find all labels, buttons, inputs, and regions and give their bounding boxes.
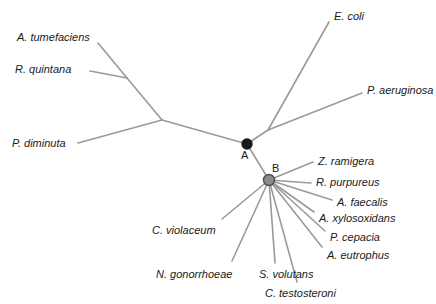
branch-a-eutrophus xyxy=(269,180,322,247)
taxon-label-s-volutans: S. volutans xyxy=(259,269,313,280)
branch-root-to-a xyxy=(162,120,247,144)
taxon-label-c-violaceum: C. violaceum xyxy=(152,225,216,236)
taxon-label-a-xylosoxidans: A. xylosoxidans xyxy=(319,213,395,224)
branch-p-aeruginosa xyxy=(268,93,362,130)
internal-node-a[interactable] xyxy=(242,139,252,149)
taxon-label-r-quintana: R. quintana xyxy=(15,64,71,75)
taxon-label-r-purpureus: R. purpureus xyxy=(316,177,380,188)
taxon-label-e-coli: E. coli xyxy=(334,11,364,22)
branch-upper-left-internal xyxy=(127,78,162,120)
node-label-a: A xyxy=(241,150,248,161)
taxon-label-c-testosteroni: C. testosteroni xyxy=(265,288,336,299)
branch-e-coli xyxy=(268,22,329,130)
internal-node-b[interactable] xyxy=(264,175,275,186)
phylogenetic-tree-figure: ABA. tumefaciensR. quintanaP. diminutaE.… xyxy=(0,0,436,304)
taxon-label-p-cepacia: P. cepacia xyxy=(330,232,380,243)
branch-n-gonorrhoeae xyxy=(232,180,269,261)
taxon-label-a-eutrophus: A. eutrophus xyxy=(327,250,389,261)
taxon-label-p-diminuta: P. diminuta xyxy=(12,138,66,149)
branch-c-violaceum xyxy=(222,180,269,219)
taxon-label-n-gonorrhoeae: N. gonorrhoeae xyxy=(156,269,232,280)
branch-p-diminuta xyxy=(78,120,162,143)
branch-a-to-b xyxy=(247,144,269,180)
taxon-label-z-ramigera: Z. ramigera xyxy=(318,156,374,167)
taxon-label-p-aeruginosa: P. aeruginosa xyxy=(367,85,433,96)
branch-lines-group xyxy=(78,22,362,282)
taxon-label-a-tumefaciens: A. tumefaciens xyxy=(17,32,90,43)
taxon-label-a-faecalis: A. faecalis xyxy=(337,197,388,208)
node-label-b: B xyxy=(272,163,279,174)
